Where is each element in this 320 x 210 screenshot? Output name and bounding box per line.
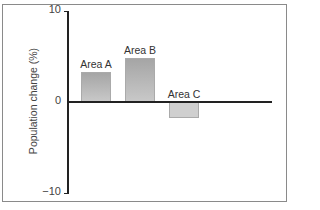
- bar-area-c: [169, 102, 199, 118]
- y-tick-label-zero: 0: [31, 94, 61, 106]
- y-tick-top: [64, 11, 68, 12]
- y-tick-bottom: [64, 193, 68, 194]
- bar-area-a: [81, 72, 111, 102]
- bar-label-area-b: Area B: [110, 44, 170, 56]
- bar-label-area-a: Area A: [66, 58, 126, 70]
- y-tick-label-top: 10: [31, 3, 61, 15]
- bar-label-area-c: Area C: [154, 88, 214, 100]
- bar-area-b: [125, 58, 155, 102]
- y-tick-label-bottom: −10: [31, 185, 61, 197]
- zero-baseline: [67, 101, 272, 103]
